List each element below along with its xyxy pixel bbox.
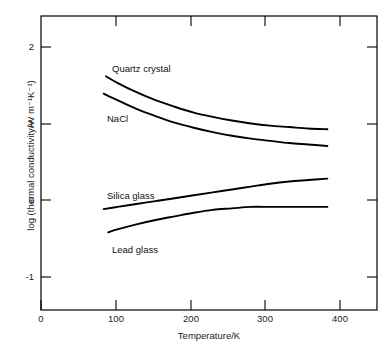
plot-area — [0, 0, 388, 348]
y-tick-label-2: 2 — [16, 41, 34, 52]
y-axis-ticks-right — [367, 47, 377, 277]
curve-label-nacl: NaCl — [107, 113, 128, 124]
chart-figure: 2 1 0 -1 0 100 200 300 400 log (thermal … — [0, 0, 388, 348]
curve-lead-glass — [108, 207, 327, 233]
x-tick-label-400: 400 — [325, 313, 355, 324]
axis-frame — [41, 16, 377, 310]
x-axis-title: Temperature/K — [41, 330, 377, 341]
curve-quartz-crystal — [106, 76, 327, 129]
x-tick-label-100: 100 — [101, 313, 131, 324]
x-tick-label-200: 200 — [176, 313, 206, 324]
data-curves — [104, 76, 328, 232]
x-axis-ticks-top — [116, 16, 340, 26]
curve-nacl — [104, 94, 328, 146]
x-tick-label-0: 0 — [31, 313, 51, 324]
curve-label-silica-glass: Silica glass — [107, 190, 155, 201]
y-axis-title: log (thermal conductivity/W m⁻¹K⁻¹) — [25, 56, 36, 256]
x-axis-ticks — [41, 300, 340, 310]
curve-label-lead-glass: Lead glass — [112, 244, 158, 255]
curve-label-quartz-crystal: Quartz crystal — [112, 63, 171, 74]
x-tick-label-300: 300 — [250, 313, 280, 324]
y-tick-label-neg1: -1 — [12, 271, 34, 282]
y-axis-ticks — [41, 47, 51, 277]
